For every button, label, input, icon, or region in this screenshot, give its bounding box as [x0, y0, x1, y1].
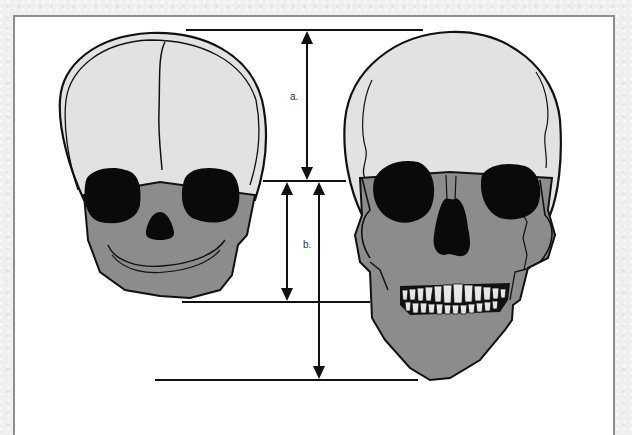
- infant-skull: [60, 33, 266, 298]
- infant-left-eye-socket: [85, 168, 141, 223]
- measurement-arrow-b: [281, 182, 293, 301]
- label-a: a.: [290, 91, 298, 102]
- arrowhead-down-icon: [281, 288, 293, 301]
- measurement-arrow-a: [301, 31, 313, 180]
- infant-right-eye-socket: [182, 168, 240, 223]
- adult-skull: [344, 32, 561, 380]
- label-b: b.: [303, 239, 311, 250]
- measurement-arrow-adult-face: [313, 182, 325, 379]
- adult-teeth: [400, 283, 510, 315]
- arrowhead-down-icon: [313, 366, 325, 379]
- arrowhead-up-icon: [301, 31, 313, 44]
- arrowhead-down-icon: [301, 167, 313, 180]
- arrowhead-up-icon: [313, 182, 325, 195]
- arrowhead-up-icon: [281, 182, 293, 195]
